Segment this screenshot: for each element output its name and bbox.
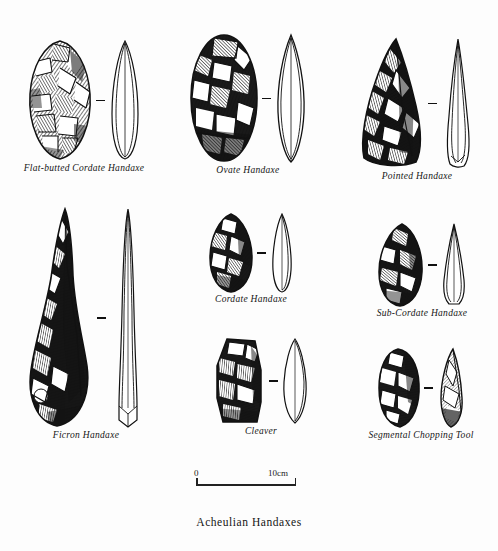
illustration-plate: Flat-butted Cordate Handaxe	[0, 0, 498, 551]
separator-dash	[262, 98, 271, 100]
segmental-chopping-face-view	[374, 346, 424, 430]
figure-caption: Ficron Handaxe	[6, 430, 166, 440]
figure-caption: Cordate Handaxe	[176, 294, 326, 304]
ficron-profile-view	[106, 206, 150, 430]
separator-dash	[257, 252, 266, 254]
separator-dash	[269, 380, 278, 382]
figure-flat-butted-cordate-handaxe: Flat-butted Cordate Handaxe	[4, 38, 164, 178]
ficron-face-view	[23, 206, 97, 430]
separator-dash	[428, 103, 437, 105]
pointed-face-view	[356, 36, 428, 171]
sub-cordate-profile-view	[437, 222, 471, 308]
cleaver-profile-view	[278, 336, 312, 426]
figure-cordate-handaxe: Cordate Handaxe	[176, 212, 326, 308]
ovate-face-view	[186, 32, 262, 165]
scale-bar-line	[196, 484, 296, 486]
ovate-profile-view	[271, 32, 311, 165]
figure-segmental-chopping-tool: Segmental Chopping Tool	[344, 346, 498, 444]
scale-label-right: 10cm	[268, 468, 288, 478]
separator-dash	[424, 387, 433, 389]
figure-cleaver: Cleaver	[186, 336, 336, 440]
figure-pointed-handaxe: Pointed Handaxe	[336, 36, 498, 186]
figure-sub-cordate-handaxe: Sub-Cordate Handaxe	[346, 222, 498, 322]
separator-dash	[96, 100, 105, 102]
plate-title: Acheulian Handaxes	[0, 516, 498, 528]
flat-butted-cordate-profile-view	[105, 38, 145, 163]
sub-cordate-face-view	[374, 222, 428, 308]
figure-ovate-handaxe: Ovate Handaxe	[168, 32, 328, 180]
cordate-profile-view	[266, 212, 298, 294]
figure-caption: Pointed Handaxe	[336, 171, 498, 181]
cordate-face-view	[205, 212, 257, 294]
segmental-chopping-side-view	[433, 346, 469, 430]
flat-butted-cordate-face-view	[24, 38, 96, 163]
figure-caption: Sub-Cordate Handaxe	[346, 308, 498, 318]
figure-caption: Flat-butted Cordate Handaxe	[4, 163, 164, 173]
figure-ficron-handaxe: Ficron Handaxe	[6, 206, 166, 452]
scale-bar: 0 10cm	[196, 470, 302, 496]
scale-label-left: 0	[194, 468, 199, 478]
cleaver-face-view	[211, 336, 269, 426]
separator-dash	[428, 264, 437, 266]
pointed-profile-view	[437, 36, 479, 171]
figure-caption: Ovate Handaxe	[168, 165, 328, 175]
figure-caption: Segmental Chopping Tool	[344, 430, 498, 440]
separator-dash	[97, 317, 106, 319]
figure-caption: Cleaver	[186, 426, 336, 436]
